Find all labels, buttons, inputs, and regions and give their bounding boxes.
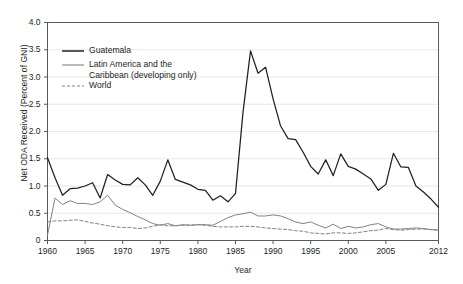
y-tick-label: 3.5: [15, 44, 41, 54]
legend-swatches: [62, 51, 84, 86]
x-axis-title: Year: [47, 265, 439, 275]
y-tick-label: 1.0: [15, 181, 41, 191]
chart-plot-area: [0, 0, 463, 284]
x-tick-label: 1975: [140, 246, 180, 256]
x-tick-label: 1965: [65, 246, 105, 256]
chart-figure: Net ODA Received (Percent of GNI) Year 0…: [0, 0, 463, 284]
x-tick-label: 1960: [28, 246, 68, 256]
x-tick-label: 1995: [291, 246, 331, 256]
x-tick-label: 1970: [103, 246, 143, 256]
y-tick-label: 0.5: [15, 208, 41, 218]
series-line-latin: [48, 195, 439, 235]
x-tick-label: 1980: [178, 246, 218, 256]
x-tick-label: 2000: [328, 246, 368, 256]
y-tick-label: 3.0: [15, 72, 41, 82]
legend-label: Guatemala: [89, 45, 131, 56]
legend-label: Latin America and the Caribbean (develop…: [89, 59, 197, 80]
y-tick-label: 2.0: [15, 126, 41, 136]
x-tick-label: 2005: [366, 246, 406, 256]
legend-label: World: [89, 80, 111, 91]
x-tick-label: 1985: [215, 246, 255, 256]
x-tick-label: 2012: [419, 246, 459, 256]
y-tick-label: 1.5: [15, 153, 41, 163]
y-tick-label: 4.0: [15, 17, 41, 27]
series-line-world: [48, 220, 439, 234]
x-tick-label: 1990: [253, 246, 293, 256]
y-tick-label: 0: [15, 235, 41, 245]
y-tick-label: 2.5: [15, 99, 41, 109]
